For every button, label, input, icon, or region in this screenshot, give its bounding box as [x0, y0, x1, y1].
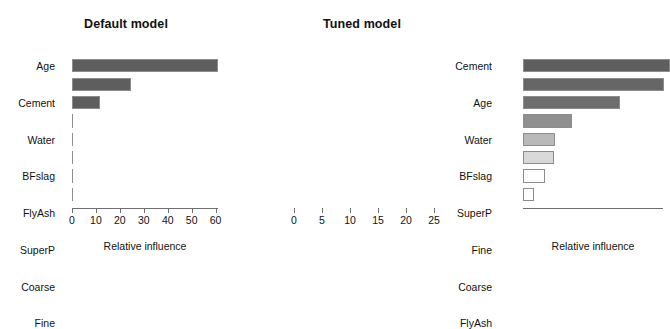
bar-water — [72, 96, 100, 109]
bar-row: Water — [72, 94, 218, 112]
bar-bfslag — [523, 114, 572, 127]
bar-cement — [72, 78, 131, 91]
bar-row: FlyAsh — [72, 131, 218, 149]
x-tick-label: 50 — [186, 214, 198, 226]
x-tick — [168, 208, 169, 213]
x-tick-label: 10 — [344, 214, 356, 226]
bar-fine — [523, 151, 554, 164]
x-tick — [378, 208, 379, 213]
panel-tuned-model: Tuned model CementAgeWaterBFslagSuperPFi… — [229, 0, 459, 269]
x-tick-label: 20 — [114, 214, 126, 226]
x-tick-label: 40 — [162, 214, 174, 226]
category-label-cement: Cement — [18, 97, 55, 109]
bar-row: Age — [72, 57, 218, 75]
bar-coarse — [523, 169, 545, 182]
category-label-water: Water — [464, 134, 492, 146]
category-label-coarse: Coarse — [21, 281, 55, 293]
bar-row: FlyAsh — [523, 186, 663, 204]
category-label-age: Age — [473, 97, 492, 109]
bar-row: Fine — [523, 149, 663, 167]
x-tick-label: 0 — [69, 214, 75, 226]
bar-superp — [523, 133, 555, 146]
category-label-age: Age — [36, 60, 55, 72]
x-axis-title-tuned: Relative influence — [523, 240, 663, 252]
bar-bfslag — [72, 114, 73, 127]
x-tick-label: 15 — [372, 214, 384, 226]
category-label-coarse: Coarse — [458, 281, 492, 293]
bar-superp — [72, 151, 73, 164]
x-tick — [192, 208, 193, 213]
bar-flyash — [523, 188, 534, 201]
x-axis-title-default: Relative influence — [72, 240, 218, 252]
x-tick — [120, 208, 121, 213]
bar-age — [72, 59, 218, 72]
x-tick — [406, 208, 407, 213]
category-label-fine: Fine — [35, 317, 55, 329]
x-axis-line-tuned — [523, 208, 663, 209]
bar-cement — [523, 59, 670, 72]
bar-water — [523, 96, 620, 109]
bar-coarse — [72, 169, 73, 182]
category-label-fine: Fine — [472, 244, 492, 256]
bar-row: Coarse — [523, 167, 663, 185]
bar-row: SuperP — [72, 149, 218, 167]
x-tick — [322, 208, 323, 213]
category-label-water: Water — [27, 134, 55, 146]
x-tick-label: 0 — [291, 214, 297, 226]
x-tick-label: 25 — [428, 214, 440, 226]
bar-flyash — [72, 133, 73, 146]
bar-row: Cement — [523, 57, 663, 75]
x-tick-label: 60 — [210, 214, 222, 226]
bar-row: BFslag — [523, 112, 663, 130]
category-label-flyash: FlyAsh — [460, 317, 492, 329]
bar-row: Water — [523, 94, 663, 112]
category-label-superp: SuperP — [457, 207, 492, 219]
bar-fine — [72, 188, 73, 201]
category-label-superp: SuperP — [20, 244, 55, 256]
bar-row: Cement — [72, 75, 218, 93]
category-label-bfslag: BFslag — [22, 170, 55, 182]
bar-row: Age — [523, 75, 663, 93]
x-tick-label: 30 — [138, 214, 150, 226]
bar-row: Coarse — [72, 167, 218, 185]
x-tick-label: 5 — [319, 214, 325, 226]
plot-area-tuned: CementAgeWaterBFslagSuperPFineCoarseFlyA… — [523, 57, 663, 204]
panel-title-default: Default model — [32, 17, 220, 31]
panel-default-model: Default model AgeCementWaterBFslagFlyAsh… — [0, 0, 229, 269]
x-tick-label: 20 — [400, 214, 412, 226]
plot-area-default: AgeCementWaterBFslagFlyAshSuperPCoarseFi… — [72, 57, 218, 204]
panel-title-tuned: Tuned model — [267, 17, 457, 31]
x-tick-label: 10 — [90, 214, 102, 226]
x-tick — [144, 208, 145, 213]
x-tick — [216, 208, 217, 213]
category-label-flyash: FlyAsh — [23, 207, 55, 219]
x-tick — [294, 208, 295, 213]
bar-row: BFslag — [72, 112, 218, 130]
x-tick — [434, 208, 435, 213]
x-tick — [72, 208, 73, 213]
bar-row: Fine — [72, 186, 218, 204]
bar-age — [523, 78, 664, 91]
category-label-cement: Cement — [455, 60, 492, 72]
x-tick — [96, 208, 97, 213]
category-label-bfslag: BFslag — [459, 170, 492, 182]
x-axis-line-default — [72, 208, 218, 209]
bar-row: SuperP — [523, 131, 663, 149]
x-tick — [350, 208, 351, 213]
